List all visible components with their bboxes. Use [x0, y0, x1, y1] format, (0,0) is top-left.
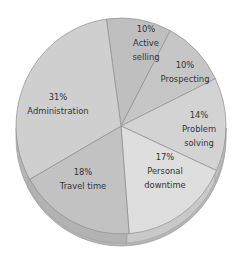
slice-percent: 10% [132, 22, 159, 36]
slice-label-active-selling: 10%Activeselling [132, 22, 159, 64]
slice-name: solving [182, 136, 216, 150]
slice-label-prospecting: 10%Prospecting [161, 58, 210, 86]
slice-name: Travel time [60, 179, 106, 193]
slice-name: downtime [144, 178, 186, 192]
slice-name: Problem [182, 122, 216, 136]
slice-name: Prospecting [161, 72, 210, 86]
slice-percent: 10% [161, 58, 210, 72]
slice-name: Active [132, 36, 159, 50]
slice-percent: 14% [182, 108, 216, 122]
slice-name: selling [132, 50, 159, 64]
slice-percent: 18% [60, 165, 106, 179]
slice-percent: 31% [27, 90, 88, 104]
slice-label-travel-time: 18%Travel time [60, 165, 106, 193]
slice-label-administration: 31%Administration [27, 90, 88, 118]
slice-percent: 17% [144, 150, 186, 164]
slice-label-problem-solving: 14%Problemsolving [182, 108, 216, 150]
slice-label-personal-downtime: 17%Personaldowntime [144, 150, 186, 192]
slice-name: Administration [27, 104, 88, 118]
slice-name: Personal [144, 164, 186, 178]
